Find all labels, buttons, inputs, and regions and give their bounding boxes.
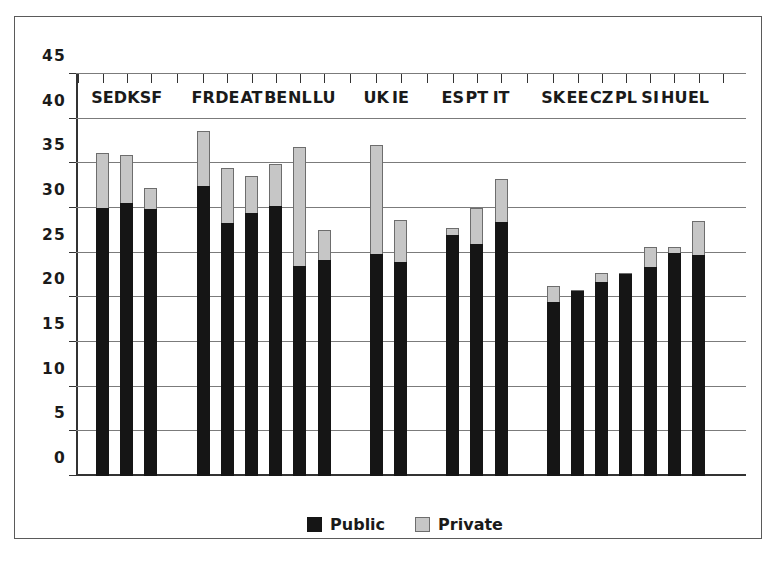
x-axis-label-fr: FR: [191, 88, 214, 107]
x-axis-label-hu: HU: [661, 88, 687, 107]
x-axis-tick-mark: [151, 74, 152, 83]
bar-pl: [619, 273, 632, 476]
y-axis-tick-mark: [69, 430, 76, 431]
x-axis-tick-mark: [177, 74, 178, 83]
x-axis-label-pl: PL: [615, 88, 637, 107]
bar-si: [644, 247, 657, 476]
y-axis-tick-mark: [69, 118, 76, 119]
bar-se: [96, 153, 109, 476]
bar-de: [221, 168, 234, 476]
x-axis-tick-mark: [203, 74, 204, 83]
bar-lu: [318, 230, 331, 476]
bar-at: [245, 176, 258, 476]
legend-item-private: Private: [415, 515, 503, 534]
x-axis-tick-mark: [674, 74, 675, 83]
gridline: [76, 118, 746, 119]
x-axis-label-sf: SF: [140, 88, 162, 107]
bar-segment-public: [370, 254, 383, 476]
y-axis-tick-label: 40: [22, 92, 66, 110]
x-axis-tick-mark: [501, 74, 502, 83]
x-axis-tick-mark: [252, 74, 253, 83]
bar-uk: [370, 145, 383, 476]
y-axis-tick-mark: [69, 73, 76, 74]
gridline: [76, 207, 746, 208]
x-axis-label-se: SE: [91, 88, 113, 107]
x-axis-label-de: DE: [215, 88, 239, 107]
y-axis-tick-mark: [69, 252, 76, 253]
x-axis-tick-mark: [553, 74, 554, 83]
x-axis-tick-mark: [699, 74, 700, 83]
bar-sf: [144, 188, 157, 476]
bar-segment-public: [96, 208, 109, 476]
y-axis-tick-mark: [69, 162, 76, 163]
chart-figure: 051015202530354045 SEDKSFFRDEATBENLLUUKI…: [0, 0, 780, 583]
x-axis-tick-mark: [427, 74, 428, 83]
x-axis-label-si: SI: [641, 88, 658, 107]
x-axis-label-es: ES: [441, 88, 463, 107]
x-axis-tick-mark: [227, 74, 228, 83]
legend-label: Private: [438, 515, 503, 534]
bar-segment-public: [470, 244, 483, 476]
x-axis-label-uk: UK: [364, 88, 389, 107]
y-axis-tick-label: 25: [22, 226, 66, 244]
y-axis-tick-mark: [69, 386, 76, 387]
x-axis-tick-mark: [127, 74, 128, 83]
x-axis-tick-mark: [300, 74, 301, 83]
x-axis-label-pt: PT: [466, 88, 489, 107]
bar-segment-public: [547, 302, 560, 476]
bar-segment-public: [120, 203, 133, 476]
figure-border: 051015202530354045 SEDKSFFRDEATBENLLUUKI…: [14, 16, 762, 539]
plot-area: 051015202530354045 SEDKSFFRDEATBENLLUUKI…: [76, 74, 746, 476]
x-axis-tick-mark: [453, 74, 454, 83]
public-swatch-icon: [307, 517, 322, 532]
bar-nl: [293, 147, 306, 476]
y-axis-tick-label: 20: [22, 270, 66, 288]
legend-label: Public: [330, 515, 385, 534]
x-axis-tick-mark: [626, 74, 627, 83]
y-axis-tick-label: 0: [22, 449, 66, 467]
y-axis-tick-label: 30: [22, 181, 66, 199]
bar-hu: [668, 247, 681, 476]
y-axis-tick-mark: [69, 341, 76, 342]
chart-legend: PublicPrivate: [15, 515, 780, 534]
y-axis-tick-label: 10: [22, 360, 66, 378]
bar-segment-public: [293, 266, 306, 476]
x-axis-tick-mark: [578, 74, 579, 83]
bar-segment-public: [595, 282, 608, 476]
bar-be: [269, 164, 282, 476]
x-axis-label-cz: CZ: [590, 88, 613, 107]
bar-segment-public: [269, 206, 282, 476]
bar-fr: [197, 131, 210, 476]
x-axis-label-at: AT: [240, 88, 262, 107]
x-axis-label-it: IT: [493, 88, 510, 107]
bar-segment-public: [644, 267, 657, 476]
x-axis-tick-mark: [602, 74, 603, 83]
x-axis-label-el: EL: [688, 88, 709, 107]
x-axis-tick-mark: [103, 74, 104, 83]
x-axis-tick-mark: [350, 74, 351, 83]
x-axis-tick-mark: [477, 74, 478, 83]
bar-ie: [394, 220, 407, 476]
x-axis-label-ie: IE: [392, 88, 409, 107]
x-axis-label-nl: NL: [288, 88, 312, 107]
bar-segment-public: [571, 291, 584, 476]
bar-segment-public: [318, 260, 331, 476]
bar-cz: [595, 273, 608, 476]
x-axis-label-be: BE: [264, 88, 287, 107]
bar-segment-public: [446, 235, 459, 476]
bar-es: [446, 228, 459, 476]
y-axis-tick-label: 15: [22, 315, 66, 333]
bar-sk: [547, 286, 560, 476]
bar-segment-public: [245, 213, 258, 476]
bar-segment-public: [692, 255, 705, 476]
y-axis-tick-label: 35: [22, 136, 66, 154]
x-axis-tick-mark: [78, 74, 79, 83]
bar-segment-public: [144, 209, 157, 476]
y-axis-tick-mark: [69, 296, 76, 297]
x-axis-label-dk: DK: [114, 88, 140, 107]
bar-ee: [571, 290, 584, 476]
y-axis-tick-mark: [69, 475, 76, 476]
x-axis-tick-mark: [401, 74, 402, 83]
x-axis-label-ee: EE: [567, 88, 589, 107]
x-axis-label-sk: SK: [541, 88, 565, 107]
